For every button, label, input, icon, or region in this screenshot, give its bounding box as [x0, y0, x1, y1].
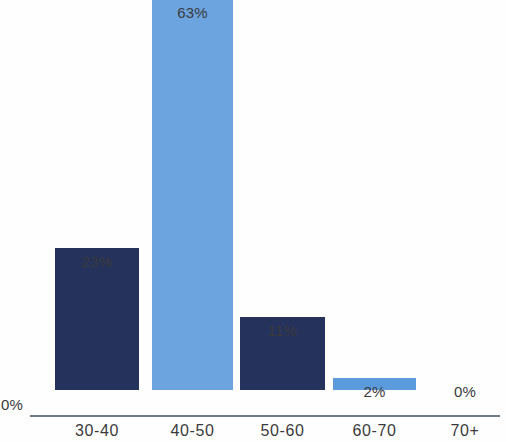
- bar-value-label: 0%: [430, 383, 500, 400]
- bar-value-label: 2%: [333, 383, 416, 400]
- bar-chart: 23%63%11%2%0% 0% 30-4040-5050-6060-7070+: [0, 0, 506, 442]
- bar-value-label: 11%: [240, 322, 325, 339]
- x-axis-tick-label: 30-40: [55, 422, 139, 440]
- axis-origin-label: 0%: [1, 396, 23, 413]
- x-axis-tick-label: 60-70: [333, 422, 416, 440]
- x-axis-category-labels: 30-4040-5050-6060-7070+: [0, 420, 506, 442]
- x-axis-tick-label: 40-50: [150, 422, 235, 440]
- bar-value-label: 63%: [150, 4, 235, 21]
- plot-area: 23%63%11%2%0% 0%: [0, 0, 506, 416]
- x-axis-tick-label: 70+: [430, 422, 500, 440]
- bar[interactable]: [152, 0, 233, 390]
- bar-value-label: 23%: [55, 253, 139, 270]
- x-axis-tick-label: 50-60: [240, 422, 325, 440]
- x-axis-line: [30, 415, 500, 417]
- bar-fill: [152, 0, 233, 390]
